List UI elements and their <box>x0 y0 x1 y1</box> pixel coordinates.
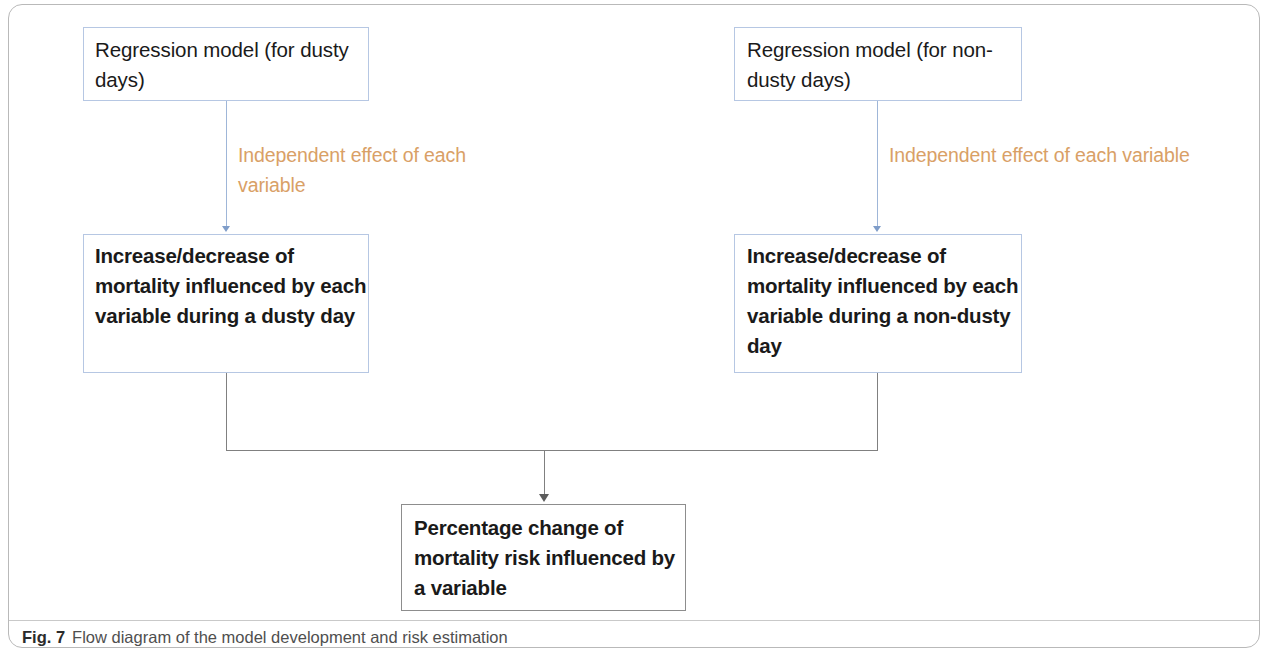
connector-line-mid-left-drop <box>226 373 227 451</box>
node-mortality-change-dusty-day-label: Increase/decrease of mortality influence… <box>95 241 368 331</box>
figure-container: Regression model (for dusty days) Regres… <box>0 0 1265 651</box>
caption-divider <box>9 620 1259 621</box>
node-regression-model-dusty: Regression model (for dusty days) <box>83 27 369 101</box>
annotation-independent-effect-right: Independent effect of each variable <box>889 140 1199 170</box>
node-regression-model-non-dusty-label: Regression model (for non-dusty days) <box>747 35 1021 95</box>
node-mortality-change-non-dusty-day: Increase/decrease of mortality influence… <box>734 234 1022 373</box>
arrowhead-down-icon-bottom <box>539 494 549 502</box>
arrowhead-down-icon-left <box>222 226 230 232</box>
figure-caption-label: Fig. 7 <box>22 628 65 646</box>
connector-line-merge-to-bottom <box>544 450 545 497</box>
arrowhead-down-icon-right <box>873 226 881 232</box>
node-percentage-change-mortality-risk-label: Percentage change of mortality risk infl… <box>414 513 685 603</box>
connector-line-top-left-to-mid-left <box>226 101 227 229</box>
connector-line-top-right-to-mid-right <box>877 101 878 229</box>
connector-line-merge-horizontal <box>226 450 878 451</box>
node-regression-model-dusty-label: Regression model (for dusty days) <box>95 35 368 95</box>
node-mortality-change-non-dusty-day-label: Increase/decrease of mortality influence… <box>747 241 1021 361</box>
node-percentage-change-mortality-risk: Percentage change of mortality risk infl… <box>401 504 686 611</box>
annotation-independent-effect-left: Independent effect of each variable <box>238 140 538 200</box>
node-regression-model-non-dusty: Regression model (for non-dusty days) <box>734 27 1022 101</box>
connector-line-mid-right-drop <box>877 373 878 451</box>
figure-caption-text: Flow diagram of the model development an… <box>72 628 508 646</box>
node-mortality-change-dusty-day: Increase/decrease of mortality influence… <box>83 234 369 373</box>
figure-caption: Fig. 7Flow diagram of the model developm… <box>22 626 508 648</box>
